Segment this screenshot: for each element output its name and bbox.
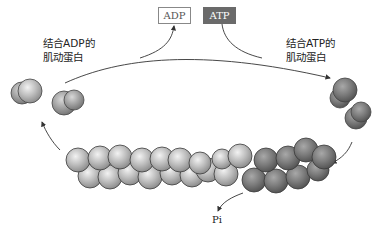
atp-actin-label-line1: 结合ATP的 <box>286 36 335 50</box>
left-up-arrow <box>42 122 60 150</box>
adp-actin-monomer-1 <box>11 79 42 104</box>
adp-actin-label: 结合ADP的 肌动蛋白 <box>43 36 95 64</box>
adp-release-arrow <box>140 26 174 58</box>
actin-cycle-diagram: ADP ATP 结合ADP的 肌动蛋白 结合ATP的 肌动蛋白 Pi <box>0 0 381 231</box>
actin-filament <box>66 138 336 193</box>
atp-binding-arrow <box>222 24 262 58</box>
atp-actin-label: 结合ATP的 肌动蛋白 <box>286 36 335 64</box>
pi-release-arrow <box>218 193 243 211</box>
adp-label-box: ADP <box>158 7 191 24</box>
atp-label-box: ATP <box>203 7 236 24</box>
adp-actin-label-line1: 结合ADP的 <box>43 36 95 50</box>
atp-actin-monomer-2 <box>345 102 371 129</box>
adp-actin-label-line2: 肌动蛋白 <box>43 50 95 64</box>
adp-actin-monomer-2 <box>52 90 84 115</box>
atp-actin-label-line2: 肌动蛋白 <box>286 50 335 64</box>
diagram-canvas <box>0 0 381 231</box>
pi-label: Pi <box>212 214 222 225</box>
atp-actin-monomer-1 <box>330 78 357 108</box>
